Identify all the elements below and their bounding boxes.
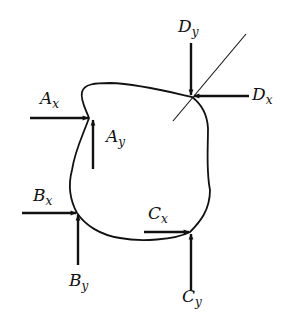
label-ay: Ay <box>106 128 125 148</box>
label-bx: Bx <box>33 187 52 207</box>
label-cx: Cx <box>148 205 168 225</box>
label-dx: Dx <box>252 86 272 106</box>
support-line-d <box>173 34 246 121</box>
diagram-canvas <box>0 0 296 322</box>
label-dy: Dy <box>178 18 198 38</box>
label-cy: Cy <box>182 288 202 308</box>
label-by: By <box>69 272 88 292</box>
label-ax: Ax <box>40 90 59 110</box>
free-body-diagram: Ax Ay Bx By Cx Cy Dx Dy <box>0 0 296 322</box>
rigid-body-outline <box>70 83 210 240</box>
